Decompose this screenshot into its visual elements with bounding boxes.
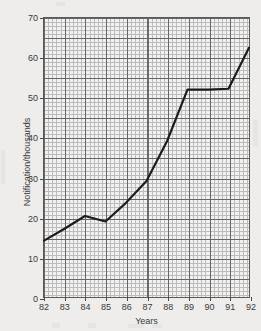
y-tick: [40, 259, 44, 260]
x-tick: [85, 297, 86, 301]
y-tick: [40, 98, 44, 99]
x-tick: [127, 297, 128, 301]
x-tick: [230, 297, 231, 301]
y-tick: [40, 179, 44, 180]
line-series: [44, 18, 249, 296]
x-tick: [251, 297, 252, 301]
x-axis-title: Years: [43, 316, 250, 326]
x-tick: [189, 297, 190, 301]
y-tick-label: 0: [33, 294, 38, 304]
x-tick-label: 82: [39, 302, 49, 312]
x-tick: [106, 297, 107, 301]
x-tick-label: 87: [142, 302, 152, 312]
x-tick-label: 85: [101, 302, 111, 312]
x-tick-label: 86: [122, 302, 132, 312]
y-tick: [40, 18, 44, 19]
x-tick-label: 91: [225, 302, 235, 312]
chart-figure: 010203040506070 8283848586878889909192 Y…: [0, 0, 261, 331]
scan-artifact: [253, 120, 258, 146]
x-tick-label: 90: [205, 302, 215, 312]
y-tick-label: 70: [28, 13, 38, 23]
scan-artifact: [1, 150, 5, 184]
x-tick-label: 84: [80, 302, 90, 312]
x-tick-label: 88: [163, 302, 173, 312]
y-axis-title: Notification/thousands: [22, 82, 32, 242]
y-tick: [40, 138, 44, 139]
y-tick-label: 10: [28, 254, 38, 264]
x-tick: [168, 297, 169, 301]
x-tick: [44, 297, 45, 301]
x-tick: [148, 297, 149, 301]
y-tick: [40, 219, 44, 220]
x-tick-label: 83: [60, 302, 70, 312]
x-tick-label: 92: [246, 302, 256, 312]
y-tick-label: 60: [28, 53, 38, 63]
x-tick-label: 89: [184, 302, 194, 312]
x-tick: [210, 297, 211, 301]
series-polyline: [44, 48, 249, 241]
y-tick: [40, 58, 44, 59]
x-tick: [65, 297, 66, 301]
plot-area: 010203040506070 8283848586878889909192: [43, 17, 250, 298]
scan-artifact: [56, 2, 65, 6]
